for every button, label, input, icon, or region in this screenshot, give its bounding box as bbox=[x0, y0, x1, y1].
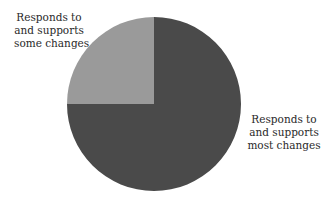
label-line: and supports bbox=[14, 24, 84, 37]
label-line: and supports bbox=[246, 126, 322, 139]
label-some-changes: Responds to and supports some changes bbox=[14, 11, 84, 50]
label-line: Responds to bbox=[246, 113, 322, 126]
label-most-changes: Responds to and supports most changes bbox=[246, 113, 322, 152]
label-line: Responds to bbox=[14, 11, 84, 24]
label-line: some changes bbox=[14, 37, 84, 50]
label-line: most changes bbox=[246, 139, 322, 152]
pie bbox=[67, 17, 241, 191]
